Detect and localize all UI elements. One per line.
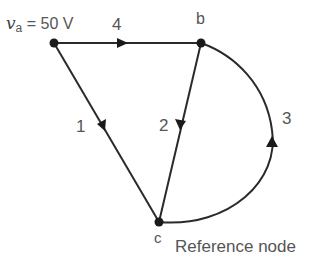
node-c-label: c	[154, 229, 162, 246]
graph-canvas: va = 50 V 4 1 2 3 b c Reference node	[0, 0, 315, 255]
edge-1	[54, 43, 159, 222]
circuit-graph-diagram: va = 50 V 4 1 2 3 b c Reference node	[0, 0, 315, 255]
node-b	[197, 39, 206, 48]
node-c	[155, 218, 164, 227]
edge-1-label: 1	[76, 117, 85, 136]
node-b-label: b	[196, 10, 205, 27]
edge-3	[159, 43, 273, 223]
edge-3-label: 3	[282, 109, 291, 128]
edge-4-arrow-icon	[117, 38, 128, 48]
reference-node-label: Reference node	[175, 237, 296, 255]
edge-2-label: 2	[159, 116, 168, 135]
edge-3-arrow-icon	[266, 136, 278, 147]
edge-4-label: 4	[112, 15, 121, 34]
node-a	[50, 39, 59, 48]
edge-1-arrow-icon	[97, 119, 106, 131]
source-voltage-label: va = 50 V	[6, 13, 74, 35]
edge-2-arrow-icon	[175, 119, 186, 130]
